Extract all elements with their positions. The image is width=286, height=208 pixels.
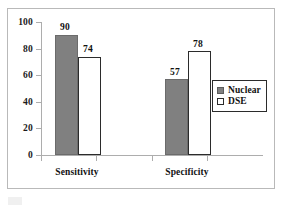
legend-item-dse[interactable]: DSE	[217, 96, 261, 107]
legend-swatch-nuclear-icon	[217, 87, 224, 94]
y-axis-label-20: 20	[3, 124, 33, 134]
x-axis-category-sensitivity: Sensitivity	[42, 167, 112, 177]
bar-specificity-nuclear[interactable]	[165, 79, 188, 155]
x-axis-sep-mid-2	[152, 156, 153, 161]
y-axis-label-0: 0	[3, 151, 33, 161]
bar-sensitivity-nuclear[interactable]	[55, 35, 78, 155]
y-axis-label-80: 80	[3, 45, 33, 55]
legend-item-nuclear[interactable]: Nuclear	[217, 85, 261, 96]
legend-label-dse: DSE	[228, 97, 247, 107]
y-axis-label-60: 60	[3, 71, 33, 81]
bar-sensitivity-dse[interactable]	[78, 57, 101, 155]
legend-label-nuclear: Nuclear	[228, 86, 261, 96]
bar-value-sensitivity-dse: 74	[83, 45, 93, 55]
y-axis-label-100: 100	[3, 18, 33, 28]
scan-artifact	[8, 197, 22, 205]
chart-legend: Nuclear DSE	[212, 80, 267, 112]
bar-value-sensitivity-nuclear: 90	[60, 23, 70, 33]
x-axis-sep-left	[41, 156, 42, 161]
bar-chart-figure: 100 80 60 40 20 0 90 74 57 78 Sensitivit…	[0, 0, 286, 208]
bar-value-specificity-dse: 78	[193, 40, 203, 50]
bar-value-specificity-nuclear: 57	[170, 68, 180, 78]
x-axis-sep-mid-1	[96, 156, 97, 161]
legend-swatch-dse-icon	[217, 98, 224, 105]
bar-specificity-dse[interactable]	[188, 51, 211, 155]
x-axis-category-specificity: Specificity	[152, 167, 222, 177]
x-axis-sep-right	[207, 156, 208, 161]
y-axis-label-40: 40	[3, 98, 33, 108]
